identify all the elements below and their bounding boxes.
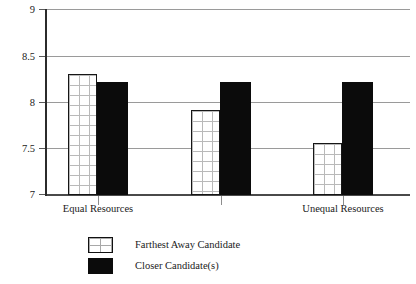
legend-swatch-solid-icon (88, 258, 113, 274)
gridline-9 (45, 9, 410, 10)
bar-farthest-away-candidate-unequal-resources (313, 143, 342, 195)
y-tick-label-8: 8 (5, 98, 35, 108)
legend-item-closer-candidates: Closer Candidate(s) (88, 255, 240, 276)
bar-closer-candidates-group-2 (220, 82, 251, 195)
legend-label-farthest-away-candidate: Farthest Away Candidate (135, 239, 240, 251)
bar-farthest-away-candidate-group-2 (191, 110, 220, 196)
legend-item-farthest-away-candidate: Farthest Away Candidate (88, 234, 240, 255)
gridline-8.5 (45, 56, 410, 57)
axis-line-y (45, 9, 47, 196)
y-tick-mark-8.5 (39, 56, 45, 57)
x-category-label-unequal-resources: Unequal Resources (280, 203, 406, 215)
y-tick-mark-7 (39, 194, 45, 195)
bar-farthest-away-candidate-equal-resources (68, 74, 97, 196)
bar-chart: 9 8.5 8 7.5 7 Equal Resources Unequal Re… (0, 0, 416, 284)
plot-area (45, 9, 410, 195)
x-tick-mark-2 (221, 196, 222, 205)
y-tick-label-7: 7 (5, 190, 35, 200)
y-tick-label-7.5: 7.5 (5, 144, 35, 154)
legend-label-closer-candidates: Closer Candidate(s) (135, 260, 219, 272)
y-tick-mark-9 (39, 9, 45, 10)
y-tick-mark-8 (39, 102, 45, 103)
legend: Farthest Away Candidate Closer Candidate… (88, 234, 240, 276)
legend-swatch-hatched-icon (88, 237, 113, 253)
y-tick-label-9: 9 (5, 5, 35, 15)
bar-closer-candidates-equal-resources (97, 82, 128, 195)
y-tick-mark-7.5 (39, 148, 45, 149)
x-category-label-equal-resources: Equal Resources (38, 203, 158, 215)
bar-closer-candidates-unequal-resources (342, 82, 373, 195)
y-tick-label-8.5: 8.5 (5, 52, 35, 62)
